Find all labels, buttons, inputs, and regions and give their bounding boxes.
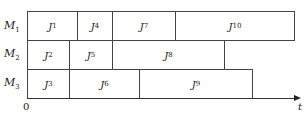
machine-label-m1: M1 xyxy=(4,19,26,34)
origin-label: 0 xyxy=(23,101,29,112)
job-block-j8: J8 xyxy=(112,40,225,70)
job-block-j10: J10 xyxy=(175,11,295,41)
job-block-j2: J2 xyxy=(27,40,70,70)
time-axis xyxy=(27,98,295,99)
job-block-j9: J9 xyxy=(139,69,253,99)
job-block-j4: J4 xyxy=(77,11,113,41)
job-block-j5: J5 xyxy=(69,40,113,70)
machine-label-m2: M2 xyxy=(4,47,26,62)
time-axis-label: t xyxy=(298,101,302,112)
job-block-j6: J6 xyxy=(69,69,140,99)
machine-label-m3: M3 xyxy=(4,76,26,91)
job-block-j1: J1 xyxy=(27,11,78,41)
job-block-j7: J7 xyxy=(112,11,176,41)
job-block-j3: J3 xyxy=(27,69,70,99)
